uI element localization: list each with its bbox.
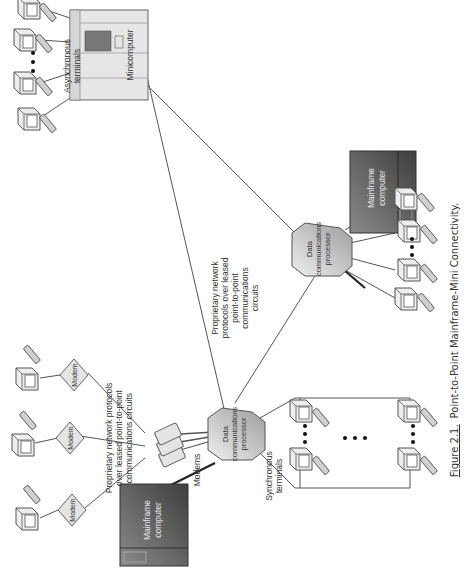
figure-title: Point-to-Point Mainframe-Mini Connectivi… — [449, 203, 460, 419]
sync-terminals-label-2: terminals — [274, 459, 284, 493]
mainframe-left-label-1: Mainframe — [142, 500, 152, 540]
proprietary-center-label-5: circuits — [250, 285, 260, 311]
dcp-left-label-2: communications — [230, 407, 239, 461]
sync-terminals-label-1: Synchronous — [264, 451, 274, 501]
proprietary-modem-label-2: over leased point-to-point — [114, 389, 124, 486]
dcp-right-label-2: communications — [314, 222, 323, 276]
dcp-right-label-1: Data — [305, 240, 314, 257]
dcp-right-label-3: processor — [323, 232, 332, 265]
figure-frame: Minicomputer Asynchronous terminals Main… — [0, 0, 469, 588]
async-terminals-label-1: Asynchronous — [62, 39, 72, 93]
modem-3-label: Modem — [71, 363, 78, 387]
modem-2-label: Modem — [67, 426, 74, 450]
modems-label: Modems — [192, 454, 202, 487]
figure-canvas: Minicomputer Asynchronous terminals Main… — [0, 0, 469, 588]
modem-stack — [154, 423, 186, 468]
mainframe-right-label-1: Mainframe — [366, 168, 376, 208]
dcp-right-terminals — [395, 188, 438, 312]
mainframe-left: Mainframe computer — [120, 484, 188, 566]
mainframe-right-label-2: computer — [377, 170, 387, 206]
remote-terminals — [12, 345, 41, 530]
minicomputer-label: Minicomputer — [125, 29, 135, 80]
proprietary-modem-label-1: Proprietary network protocols — [104, 383, 114, 494]
figure-caption: Figure 2.1.Point-to-Point Mainframe-Mini… — [449, 203, 460, 477]
dcp-right: Data communications processor — [292, 222, 352, 276]
dcp-left-label-1: Data — [221, 425, 230, 442]
async-terminals — [14, 0, 57, 133]
figure-label: Figure 2.1. — [449, 424, 460, 477]
proprietary-center-label-3: point-to-point — [230, 273, 240, 323]
dcp-left: Data communications processor — [208, 407, 265, 461]
remote-modem-1: Modem — [58, 494, 86, 526]
proprietary-center-label-2: protocols over leased — [220, 257, 230, 338]
remote-modem-2: Modem — [56, 422, 84, 454]
sync-terminals — [290, 400, 438, 475]
async-terminals-label-2: terminals — [72, 49, 82, 83]
modem-1-label: Modem — [69, 498, 76, 522]
mainframe-left-label-2: computer — [153, 502, 163, 538]
remote-modem-3: Modem — [60, 359, 88, 391]
dcp-left-label-3: processor — [239, 417, 248, 450]
proprietary-center-label-1: Proprietary network — [210, 260, 220, 334]
proprietary-modem-label-3: communications circuits — [124, 393, 134, 483]
proprietary-center-label-4: communications — [240, 267, 250, 328]
